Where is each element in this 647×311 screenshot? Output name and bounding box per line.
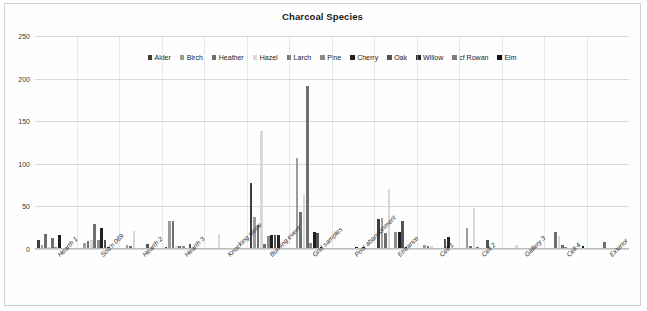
bar[interactable] (260, 131, 263, 249)
bar[interactable] (554, 232, 557, 249)
bar[interactable] (93, 224, 96, 249)
bar[interactable] (218, 234, 221, 249)
bar[interactable] (250, 183, 253, 249)
x-axis-label-cell: Hearth 1 (35, 251, 77, 309)
bar-group (78, 36, 121, 249)
bar[interactable] (306, 86, 309, 249)
bar-group (290, 36, 333, 249)
bar[interactable] (466, 228, 469, 249)
bar[interactable] (394, 232, 397, 249)
plot-area: 050100150200250 (35, 36, 629, 249)
bar-group (460, 36, 503, 249)
bar-group (120, 36, 163, 249)
bar-group (35, 36, 78, 249)
bar[interactable] (398, 232, 401, 249)
bar[interactable] (44, 234, 47, 249)
bar[interactable] (58, 235, 61, 249)
y-axis-tick-label: 250 (18, 33, 30, 40)
x-axis-label-cell: Entrance (374, 251, 416, 309)
chart-title: Charcoal Species (5, 11, 640, 22)
x-axis-label-cell: Burning event (247, 251, 289, 309)
x-axis-label-cell: Knocking stone (205, 251, 247, 309)
x-axis-label-cell: Cell 1 (417, 251, 459, 309)
bar[interactable] (303, 195, 306, 249)
bar[interactable] (133, 231, 136, 249)
y-axis-tick-label: 200 (18, 75, 30, 82)
x-axis-label-cell: Cell 4 (544, 251, 586, 309)
bar[interactable] (168, 221, 171, 249)
bar[interactable] (100, 228, 103, 249)
bar-group (588, 36, 630, 249)
gridline (35, 249, 629, 250)
bar[interactable] (296, 158, 299, 249)
bar-group (545, 36, 588, 249)
bar-group (205, 36, 248, 249)
x-axis-label-cell: Hearth 2 (120, 251, 162, 309)
y-axis-tick-label: 50 (22, 203, 30, 210)
x-axis-line (35, 248, 629, 249)
x-axis-label-cell: Exterior (586, 251, 628, 309)
bar[interactable] (473, 208, 476, 249)
bar-group (163, 36, 206, 249)
bar-group (248, 36, 291, 249)
bar[interactable] (313, 232, 316, 249)
x-axis-label-cell: Post abandonment (332, 251, 374, 309)
bar[interactable] (172, 221, 175, 249)
x-axis-label-cell: Grid samples (290, 251, 332, 309)
x-axis-label-cell: Sou'n 069 (77, 251, 119, 309)
y-axis-tick-label: 100 (18, 160, 30, 167)
y-axis-tick-label: 0 (26, 246, 30, 253)
bar-group (333, 36, 376, 249)
x-axis-labels: Hearth 1Sou'n 069Hearth 2Hearth 3Knockin… (35, 251, 629, 309)
x-axis-label-cell: Hearth 3 (162, 251, 204, 309)
bar-group (503, 36, 546, 249)
x-axis-label-cell: Gallery 3 (502, 251, 544, 309)
x-axis-label-cell: Cell 2 (459, 251, 501, 309)
chart-container: Charcoal Species AlderBirchHeatherHazelL… (4, 3, 641, 306)
bar-group (418, 36, 461, 249)
y-axis-tick-label: 150 (18, 118, 30, 125)
bar-groups (35, 36, 629, 249)
bar[interactable] (384, 233, 387, 249)
